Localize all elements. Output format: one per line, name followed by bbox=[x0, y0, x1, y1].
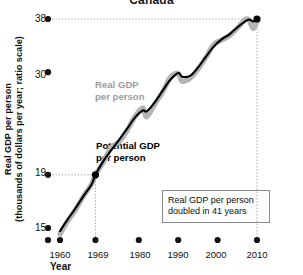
x-tick-dot-2000 bbox=[215, 237, 221, 243]
highlight-point-markers bbox=[92, 15, 261, 178]
x-tick-dot-1980 bbox=[136, 237, 142, 243]
y-tick-dot-15 bbox=[45, 225, 51, 231]
highlight-point-1969 bbox=[92, 171, 99, 178]
x-tick-dot-1969 bbox=[92, 237, 98, 243]
plot-area bbox=[0, 0, 303, 275]
highlight-point-2010 bbox=[253, 15, 260, 22]
series-path-potential-gdp bbox=[60, 20, 257, 231]
series-layer bbox=[60, 19, 257, 234]
y-tick-dot-19 bbox=[45, 172, 51, 178]
x-tick-dot-1960 bbox=[57, 237, 63, 243]
series-path-real-gdp bbox=[60, 19, 257, 234]
y-tick-dot-38 bbox=[45, 16, 51, 22]
x-tick-dot-1990 bbox=[175, 237, 181, 243]
origin-corner-dot bbox=[45, 237, 51, 243]
gdp-chart: Canada Real GDP per person (thousands of… bbox=[0, 0, 303, 275]
x-tick-dot-2010 bbox=[254, 237, 260, 243]
y-tick-dot-30 bbox=[45, 69, 51, 75]
